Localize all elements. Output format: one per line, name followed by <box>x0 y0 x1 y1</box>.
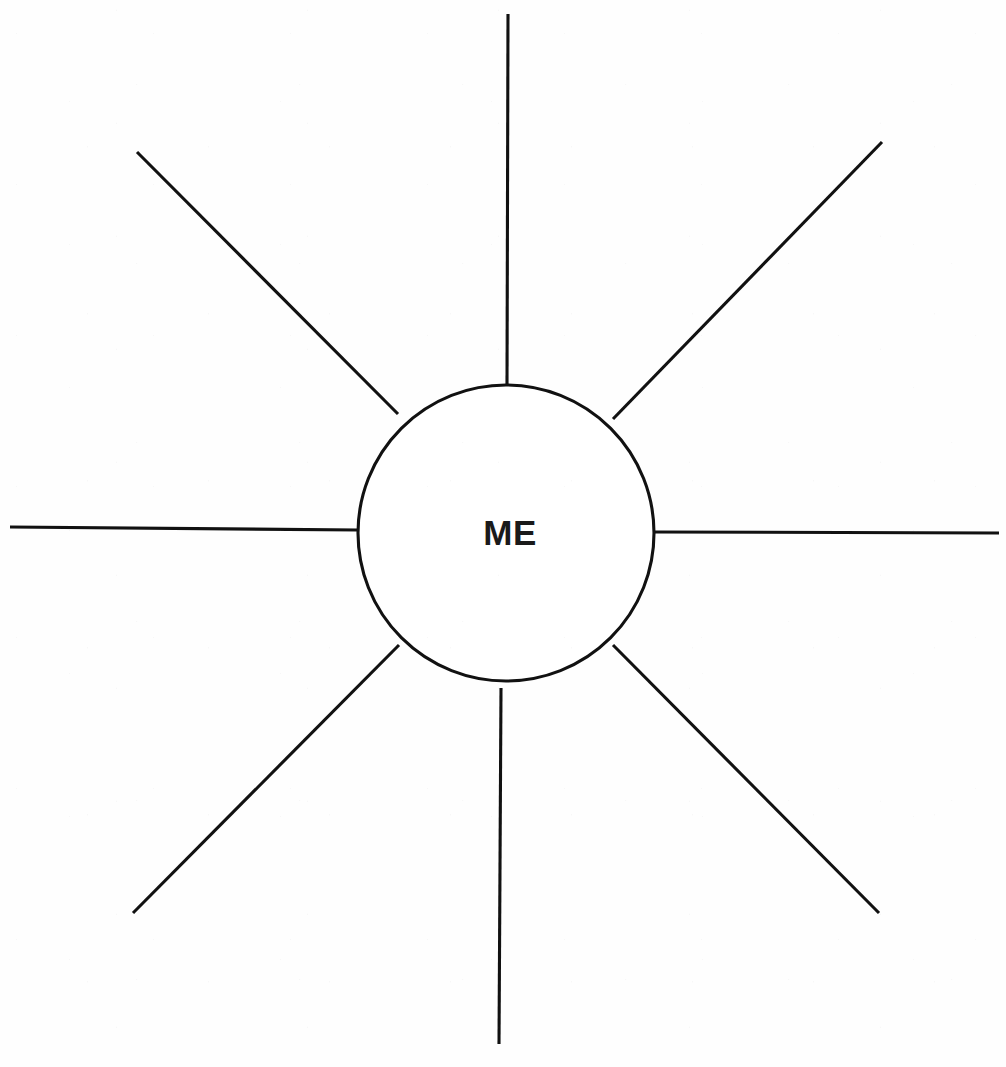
spoke-line-down[interactable] <box>499 688 501 1044</box>
spoke-line-up[interactable] <box>507 14 508 385</box>
spoke-line-right[interactable] <box>655 532 999 533</box>
spider-diagram: ME <box>0 0 1006 1067</box>
spoke-line-down-left[interactable] <box>133 645 399 913</box>
spoke-line-up-right[interactable] <box>613 142 882 419</box>
spoke-line-up-left[interactable] <box>137 152 398 414</box>
hub-label: ME <box>483 513 537 552</box>
worksheet-canvas: ME <box>0 0 1006 1067</box>
spoke-line-left[interactable] <box>10 527 358 530</box>
spoke-line-down-right[interactable] <box>613 645 879 913</box>
